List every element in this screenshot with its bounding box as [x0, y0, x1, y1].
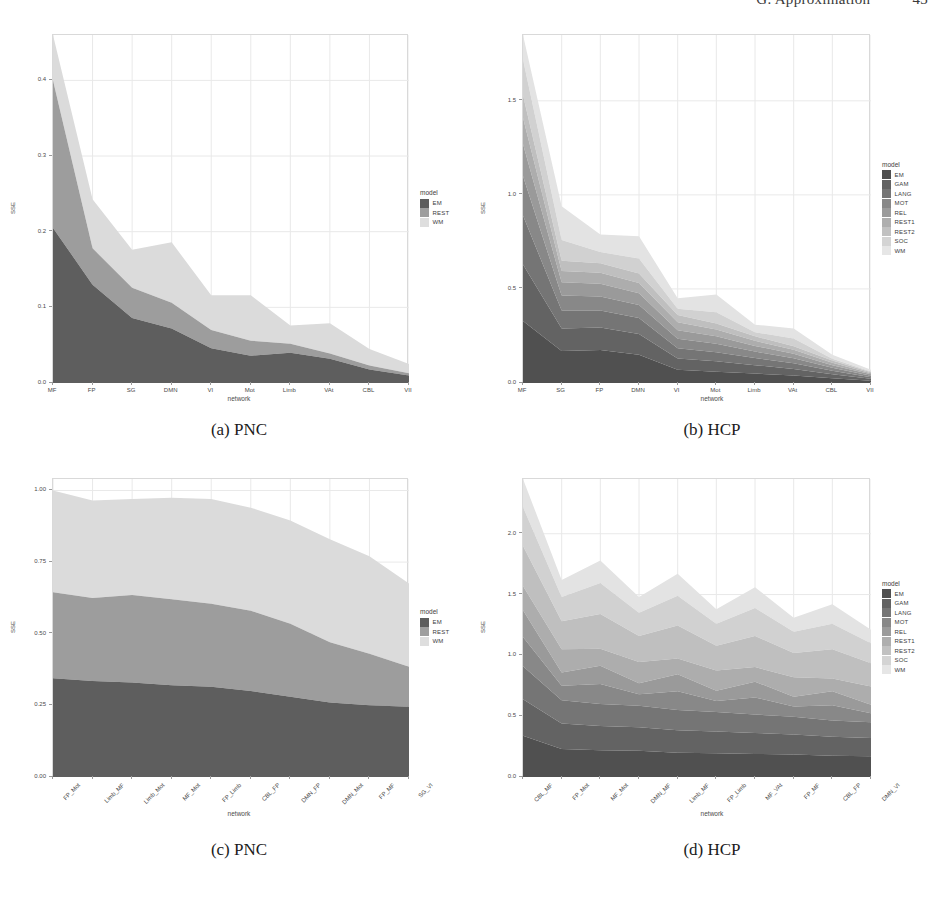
plot-area-b: SSE0.00.51.01.5MFSGFPDMNVIMotLimbVAtCBLV…: [478, 18, 946, 416]
legend-item[interactable]: EM: [882, 170, 915, 180]
y-axis-title: SSE: [480, 202, 486, 214]
legend-item[interactable]: GAM: [882, 179, 915, 189]
legend-item[interactable]: REST1: [882, 636, 915, 646]
x-axis-tick-label: VI: [207, 387, 213, 393]
x-axis-tick-label: DMN_Mot: [341, 782, 364, 805]
y-axis-tick-label: 0.5: [481, 712, 516, 718]
legend-label: WM: [895, 248, 906, 254]
legend-item[interactable]: LANG: [882, 608, 915, 618]
x-axis-tick-label: MF: [48, 387, 57, 393]
x-axis-tick-mark: [831, 382, 832, 385]
x-axis-tick-mark: [289, 382, 290, 385]
x-axis-tick-mark: [171, 382, 172, 385]
x-axis-tick-label: Limb: [747, 387, 760, 393]
x-axis-tick-mark: [368, 776, 369, 779]
x-axis-tick-label: Limb_Mot: [143, 782, 166, 805]
legend-item[interactable]: REST: [420, 208, 449, 218]
y-axis-tick-label: 0.50: [11, 630, 46, 636]
legend-label: REST: [433, 629, 450, 635]
legend-swatch-wm: [420, 637, 429, 646]
legend-label: EM: [433, 200, 442, 206]
legend-item[interactable]: SOC: [882, 655, 915, 665]
x-axis-tick-mark: [638, 776, 639, 779]
legend-item[interactable]: LANG: [882, 189, 915, 199]
legend-item[interactable]: REST1: [882, 217, 915, 227]
x-axis-tick-label: FP: [595, 387, 603, 393]
y-axis-title: SSE: [480, 621, 486, 633]
x-axis-tick-mark: [754, 776, 755, 779]
x-axis-tick-label: Limb: [283, 387, 296, 393]
legend-item[interactable]: WM: [420, 636, 449, 646]
legend-swatch-rest: [420, 208, 429, 217]
x-axis-tick-mark: [522, 776, 523, 779]
panel-b: SSE0.00.51.01.5MFSGFPDMNVIMotLimbVAtCBLV…: [478, 18, 946, 458]
x-axis-tick-mark: [715, 382, 716, 385]
legend-label: LANG: [895, 191, 912, 197]
plot-area-d: SSE0.00.51.01.52.0CBL_MFFP_MotMF_MotDMN_…: [478, 462, 946, 834]
legend-item[interactable]: REST2: [882, 646, 915, 656]
x-axis-tick-mark: [754, 382, 755, 385]
legend-label: WM: [895, 667, 906, 673]
legend-item[interactable]: REST: [420, 627, 449, 637]
x-axis-tick-label: VI: [674, 387, 680, 393]
legend-label: EM: [895, 172, 904, 178]
x-axis-tick-label: MF: [518, 387, 527, 393]
legend-item[interactable]: MOT: [882, 617, 915, 627]
legend-item[interactable]: EM: [420, 617, 449, 627]
x-axis-tick-label: DMN: [631, 387, 645, 393]
legend-item[interactable]: GAM: [882, 598, 915, 608]
y-axis-tick-label: 0.0: [481, 379, 516, 385]
x-axis-tick-label: DMN_FP: [301, 782, 323, 804]
y-axis-tick-label: 0.5: [481, 285, 516, 291]
x-axis-tick-label: CBL: [363, 387, 375, 393]
legend-label: GAM: [895, 181, 909, 187]
legend: modelEMGAMLANGMOTRELREST1REST2SOCWM: [882, 161, 915, 256]
x-axis-tick-label: DMN: [164, 387, 178, 393]
x-axis-tick-label: Mot: [710, 387, 720, 393]
legend-item[interactable]: REL: [882, 627, 915, 637]
legend-swatch-mot: [882, 618, 891, 627]
plot-panel: [522, 34, 870, 382]
legend-item[interactable]: REL: [882, 208, 915, 218]
x-axis-tick-label: CBL: [825, 387, 837, 393]
legend: modelEMRESTWM: [420, 189, 449, 227]
legend-label: REST: [433, 210, 450, 216]
x-axis-tick-mark: [92, 776, 93, 779]
x-axis-tick-mark: [561, 382, 562, 385]
legend-item[interactable]: EM: [882, 589, 915, 599]
x-axis-tick-mark: [171, 776, 172, 779]
legend-label: MOT: [895, 200, 909, 206]
legend-swatch-em: [882, 589, 891, 598]
x-axis-tick-mark: [329, 776, 330, 779]
legend-item[interactable]: WM: [420, 217, 449, 227]
x-axis-tick-mark: [715, 776, 716, 779]
plot-panel: [52, 478, 408, 776]
x-axis-tick-label: Mot: [245, 387, 255, 393]
x-axis-tick-label: FP_Limb: [726, 782, 747, 803]
legend-label: EM: [433, 619, 442, 625]
legend-item[interactable]: WM: [882, 665, 915, 675]
legend-item[interactable]: MOT: [882, 198, 915, 208]
panel-a: SSE0.00.10.20.30.4MFFPSGDMNVIMotLimbVAtC…: [8, 18, 470, 458]
chart-canvas: [523, 35, 871, 383]
legend-swatch-gam: [882, 599, 891, 608]
x-axis-tick-mark: [131, 382, 132, 385]
legend-swatch-rel: [882, 627, 891, 636]
x-axis-tick-mark: [561, 776, 562, 779]
legend-title: model: [882, 161, 915, 168]
running-head: G. Approximation 43: [0, 0, 950, 9]
legend-swatch-em: [420, 199, 429, 208]
x-axis-title: network: [8, 810, 470, 817]
running-head-page: 43: [912, 0, 928, 7]
y-axis-tick-label: 2.0: [481, 530, 516, 536]
legend-item[interactable]: WM: [882, 246, 915, 256]
x-axis-tick-mark: [250, 776, 251, 779]
legend-item[interactable]: EM: [420, 198, 449, 208]
x-axis-tick-mark: [870, 776, 871, 779]
legend-item[interactable]: SOC: [882, 236, 915, 246]
legend-swatch-soc: [882, 237, 891, 246]
legend-label: REL: [895, 629, 907, 635]
legend-item[interactable]: REST2: [882, 227, 915, 237]
x-axis-tick-mark: [52, 776, 53, 779]
x-axis-tick-mark: [831, 776, 832, 779]
